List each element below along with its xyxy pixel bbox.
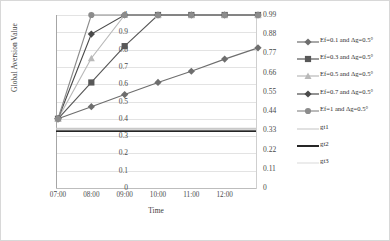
legend-label: Ef=0.5 and Δg=0.5° — [320, 70, 373, 78]
series-line — [58, 15, 258, 119]
data-point-marker — [122, 12, 128, 18]
data-point-marker — [221, 56, 228, 63]
secondary-y-axis-tick: 0.55 — [263, 88, 289, 96]
secondary-y-axis-tick: 0.22 — [263, 146, 289, 154]
data-point-marker — [304, 38, 311, 45]
secondary-y-axis-tick: 0.33 — [263, 126, 289, 134]
legend-item[interactable]: gt1 — [297, 118, 389, 135]
legend-label: Ef=0.1 and Δg=0.5° — [320, 36, 373, 44]
legend-item[interactable]: Ef=0.7 and Δg=0.5° — [297, 83, 389, 100]
legend-label: Ef=1 and Δg=0.5° — [320, 105, 368, 113]
data-series-layer — [56, 15, 256, 188]
legend-item[interactable]: gt3 — [297, 153, 389, 170]
data-point-marker — [88, 12, 94, 18]
legend-marker-icon — [297, 138, 319, 150]
data-point-marker — [55, 116, 61, 122]
secondary-y-axis-tick: 0 — [263, 184, 289, 192]
legend-item[interactable]: Ef=0.5 and Δg=0.5° — [297, 66, 389, 83]
data-point-marker — [88, 103, 95, 110]
data-point-marker — [88, 79, 94, 85]
data-point-marker — [121, 91, 128, 98]
chart-legend: Ef=0.1 and Δg=0.5°Ef=0.3 and Δg=0.5°Ef=0… — [297, 31, 389, 170]
legend-item[interactable]: gt2 — [297, 135, 389, 152]
data-point-marker — [188, 12, 194, 18]
data-point-marker — [122, 43, 128, 49]
legend-label: gt3 — [320, 157, 329, 165]
legend-item[interactable]: Ef=0.1 and Δg=0.5° — [297, 31, 389, 48]
data-point-marker — [255, 12, 261, 18]
data-point-marker — [304, 90, 311, 97]
data-point-marker — [154, 79, 161, 86]
legend-marker-icon — [297, 34, 319, 46]
data-point-marker — [188, 68, 195, 75]
secondary-y-axis-tick: 0.88 — [263, 30, 289, 38]
secondary-y-axis-tick: 0.44 — [263, 107, 289, 115]
legend-label: Ef=0.3 and Δg=0.5° — [320, 53, 373, 61]
legend-marker-icon — [297, 121, 319, 133]
legend-item[interactable]: Ef=1 and Δg=0.5° — [297, 101, 389, 118]
data-point-marker — [88, 30, 95, 37]
data-point-marker — [254, 44, 261, 51]
legend-marker-icon — [297, 155, 319, 167]
legend-label: gt2 — [320, 140, 329, 148]
legend-marker-icon — [297, 68, 319, 80]
x-axis-title: Time — [56, 206, 256, 215]
series-line — [58, 15, 258, 119]
secondary-y-axis-tick: 0.77 — [263, 49, 289, 57]
legend-marker-icon — [297, 86, 319, 98]
legend-item[interactable]: Ef=0.3 and Δg=0.5° — [297, 48, 389, 65]
plot-area — [56, 15, 256, 188]
secondary-y-axis-tick: 0.66 — [263, 69, 289, 77]
chart-figure: 10.90.80.70.60.50.40.30.20.10 0.990.880.… — [0, 0, 390, 241]
x-axis-tick: 12:00 — [205, 191, 245, 199]
legend-marker-icon — [297, 51, 319, 63]
legend-label: Ef=0.7 and Δg=0.5° — [320, 88, 373, 96]
y-axis-title: Global Aversion Value — [10, 0, 19, 118]
data-point-marker — [305, 56, 311, 62]
data-point-marker — [305, 108, 311, 114]
data-point-marker — [155, 12, 161, 18]
secondary-y-axis-tick: 0.11 — [263, 165, 289, 173]
legend-label: gt1 — [320, 123, 329, 131]
secondary-y-axis-line — [256, 15, 257, 189]
series-line — [58, 15, 258, 119]
data-point-marker — [222, 12, 228, 18]
legend-marker-icon — [297, 103, 319, 115]
secondary-y-axis-tick: 0.99 — [263, 11, 289, 19]
x-axis-line — [56, 188, 256, 189]
series-line — [58, 15, 258, 119]
